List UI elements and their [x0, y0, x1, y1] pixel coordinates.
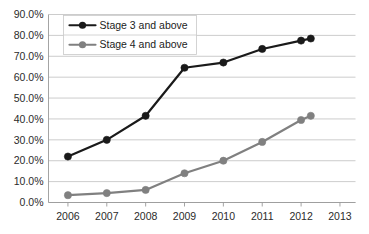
legend-label-stage-4-and-above: Stage 4 and above: [100, 38, 188, 50]
x-axis-tick-labels: 20062007200820092010201120122013: [56, 210, 352, 222]
data-point-stage-4-and-above-2012-25: [307, 112, 314, 119]
y-axis-label-50: 50.0%: [14, 92, 44, 104]
data-point-stage-3-and-above-2006: [64, 153, 71, 160]
data-point-stage-3-and-above-2009: [181, 64, 188, 71]
legend-label-stage-3-and-above: Stage 3 and above: [100, 19, 188, 31]
data-point-stage-3-and-above-2011: [259, 45, 266, 52]
data-point-stage-4-and-above-2006: [64, 192, 71, 199]
x-axis-label-2012: 2012: [289, 210, 313, 222]
y-axis-tick-labels: 0.0%10.0%20.0%30.0%40.0%50.0%60.0%70.0%8…: [14, 8, 44, 208]
data-point-stage-4-and-above-2012: [297, 116, 304, 123]
y-axis-label-10: 10.0%: [14, 175, 44, 187]
data-series: [64, 35, 314, 199]
x-axis-label-2007: 2007: [95, 210, 119, 222]
x-axis-label-2008: 2008: [134, 210, 158, 222]
y-axis-label-70: 70.0%: [14, 50, 44, 62]
y-axis-label-40: 40.0%: [14, 113, 44, 125]
series-line-stage-4-and-above: [68, 116, 311, 195]
y-axis-label-0: 0.0%: [20, 196, 44, 208]
data-point-stage-3-and-above-2012: [297, 37, 304, 44]
legend-marker-stage-3-and-above: [79, 22, 86, 29]
chart-legend: Stage 3 and aboveStage 4 and above: [64, 16, 197, 55]
y-axis-label-60: 60.0%: [14, 71, 44, 83]
data-point-stage-4-and-above-2007: [103, 190, 110, 197]
data-point-stage-4-and-above-2010: [220, 157, 227, 164]
x-axis-label-2013: 2013: [328, 210, 352, 222]
data-point-stage-3-and-above-2012-25: [307, 35, 314, 42]
data-point-stage-3-and-above-2008: [142, 112, 149, 119]
y-axis-label-30: 30.0%: [14, 134, 44, 146]
y-axis-label-80: 80.0%: [14, 29, 44, 41]
y-axis-label-90: 90.0%: [14, 8, 44, 20]
legend-marker-stage-4-and-above: [79, 41, 86, 48]
data-point-stage-4-and-above-2008: [142, 186, 149, 193]
chart-container: 0.0%10.0%20.0%30.0%40.0%50.0%60.0%70.0%8…: [0, 0, 369, 234]
data-point-stage-4-and-above-2009: [181, 170, 188, 177]
series-stage-4-and-above: [64, 112, 314, 199]
x-axis-label-2010: 2010: [212, 210, 236, 222]
x-axis-label-2011: 2011: [251, 210, 274, 222]
data-point-stage-4-and-above-2011: [259, 138, 266, 145]
x-axis-label-2006: 2006: [56, 210, 80, 222]
data-point-stage-3-and-above-2007: [103, 136, 110, 143]
x-axis-label-2009: 2009: [173, 210, 197, 222]
y-axis-label-20: 20.0%: [14, 154, 44, 166]
line-chart: 0.0%10.0%20.0%30.0%40.0%50.0%60.0%70.0%8…: [0, 0, 369, 234]
data-point-stage-3-and-above-2010: [220, 59, 227, 66]
